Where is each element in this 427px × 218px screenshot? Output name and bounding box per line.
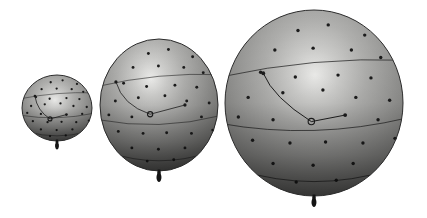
figure-canvas xyxy=(0,0,427,218)
balloon-small xyxy=(20,75,94,149)
balloon-medium xyxy=(97,39,221,182)
balloon-bottom-shading xyxy=(225,10,403,196)
expanding-balloon-figure xyxy=(0,0,427,218)
balloon-large xyxy=(221,10,408,207)
balloon-bottom-shading xyxy=(100,39,218,171)
